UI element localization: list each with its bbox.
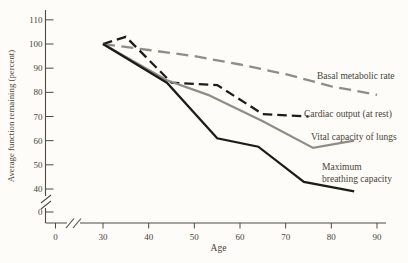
series-label-basal-metabolic-rate: Basal metabolic rate bbox=[317, 71, 395, 81]
y-tick-label-80: 80 bbox=[34, 87, 44, 97]
y-tick-label-40: 40 bbox=[34, 184, 44, 194]
y-tick-label-90: 90 bbox=[34, 63, 44, 73]
series-label-line-basal-metabolic-rate-0: Basal metabolic rate bbox=[317, 71, 395, 81]
series-label-vital-capacity-of-lungs: Vital capacity of lungs bbox=[311, 132, 397, 142]
series-label-cardiac-output-at-rest: Cardiac output (at rest) bbox=[304, 109, 392, 120]
line-chart: 0304050607080900405060708090100110Basal … bbox=[0, 0, 408, 263]
y-tick-label-60: 60 bbox=[34, 136, 44, 146]
y-tick-label-100: 100 bbox=[29, 39, 43, 49]
x-tick-label-80: 80 bbox=[327, 232, 337, 242]
series-label-line-cardiac-output-at-rest-0: Cardiac output (at rest) bbox=[304, 109, 392, 120]
series-label-maximum-breathing-capacity: Maximumbreathing capacity bbox=[322, 162, 392, 184]
series-label-line-maximum-breathing-capacity-1: breathing capacity bbox=[322, 174, 392, 184]
x-tick-label-40: 40 bbox=[144, 232, 154, 242]
series-line-cardiac-output-at-rest bbox=[103, 37, 309, 117]
y-tick-label-110: 110 bbox=[29, 15, 43, 25]
x-tick-label-0: 0 bbox=[53, 232, 58, 242]
x-tick-label-70: 70 bbox=[281, 232, 291, 242]
series-label-line-maximum-breathing-capacity-0: Maximum bbox=[322, 162, 362, 172]
aging-function-chart-figure: 0304050607080900405060708090100110Basal … bbox=[0, 0, 408, 263]
y-tick-label-70: 70 bbox=[34, 112, 44, 122]
x-tick-label-30: 30 bbox=[99, 232, 109, 242]
y-axis-title: Average function remaining (percent) bbox=[6, 50, 16, 183]
series-label-line-vital-capacity-of-lungs-0: Vital capacity of lungs bbox=[311, 132, 397, 142]
x-tick-label-50: 50 bbox=[190, 232, 200, 242]
x-tick-label-60: 60 bbox=[236, 232, 246, 242]
y-tick-label-50: 50 bbox=[34, 160, 44, 170]
x-axis-title: Age bbox=[211, 243, 227, 253]
x-tick-label-90: 90 bbox=[373, 232, 383, 242]
